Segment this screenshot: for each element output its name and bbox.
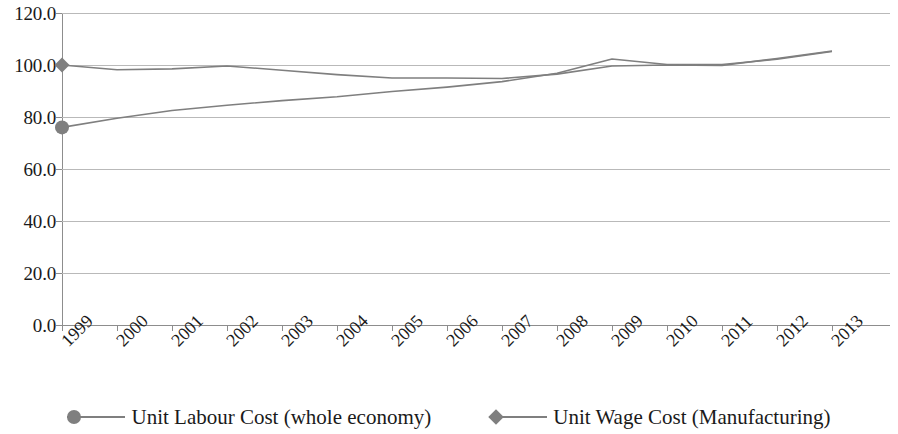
legend-item-unit-wage-cost[interactable]: Unit Wage Cost (Manufacturing) (489, 407, 830, 428)
y-axis-labels: 0.020.040.060.080.0100.0120.0 (0, 0, 56, 434)
series-layer (62, 13, 890, 325)
legend-item-unit-labour-cost[interactable]: Unit Labour Cost (whole economy) (67, 407, 431, 428)
plot-area (62, 13, 890, 325)
y-tick-label: 0.0 (0, 316, 56, 335)
y-tick-label: 120.0 (0, 4, 56, 23)
y-tick-label: 40.0 (0, 212, 56, 231)
circle-marker-icon (55, 120, 69, 134)
diamond-marker-icon (55, 58, 70, 73)
circle-marker-icon (67, 409, 125, 425)
series-line-2 (62, 51, 832, 79)
y-tick-label: 20.0 (0, 264, 56, 283)
y-tick-label: 80.0 (0, 108, 56, 127)
diamond-marker-icon (489, 409, 547, 425)
series-line-1 (62, 52, 832, 128)
y-tick-label: 100.0 (0, 56, 56, 75)
x-axis-labels: 1999200020012002200320042005200620072008… (62, 325, 890, 395)
chart-legend: Unit Labour Cost (whole economy) Unit Wa… (0, 400, 898, 434)
line-chart: 0.020.040.060.080.0100.0120.0 1999200020… (0, 0, 898, 434)
legend-label: Unit Wage Cost (Manufacturing) (553, 407, 830, 428)
legend-label: Unit Labour Cost (whole economy) (131, 407, 431, 428)
y-tick-label: 60.0 (0, 160, 56, 179)
